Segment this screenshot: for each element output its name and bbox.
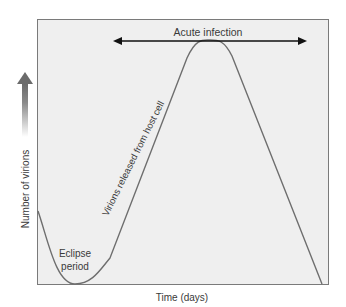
y-axis-label: Number of virions — [20, 150, 31, 228]
acute-infection-label: Acute infection — [174, 26, 243, 38]
eclipse-label-line2: period — [61, 261, 89, 272]
x-axis-label: Time (days) — [156, 292, 208, 303]
plot-area — [38, 20, 329, 285]
eclipse-label-line1: Eclipse — [59, 248, 92, 259]
y-axis-up-arrow-icon — [17, 72, 33, 137]
virion-growth-diagram: Acute infection Virions released from ho… — [0, 0, 346, 307]
